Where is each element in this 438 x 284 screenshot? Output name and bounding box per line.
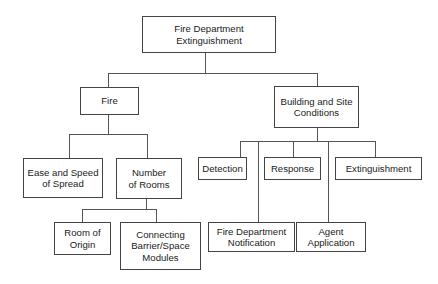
- connector: [328, 141, 329, 222]
- connector: [82, 209, 83, 222]
- connector: [146, 198, 147, 209]
- node-fire-department-notification: Fire Department Notification: [208, 222, 295, 252]
- connector: [293, 141, 294, 157]
- node-building-and-site-conditions: Building and Site Conditions: [274, 86, 359, 128]
- node-connecting-barrier-space-modules: Connecting Barrier/Space Modules: [120, 222, 201, 270]
- connector: [147, 134, 148, 158]
- node-room-of-origin: Room of Origin: [54, 222, 111, 255]
- connector: [375, 141, 376, 157]
- connector: [108, 73, 318, 74]
- connector: [317, 73, 318, 86]
- connector: [108, 73, 109, 87]
- node-fire-department-extinguishment: Fire Department Extinguishment: [142, 16, 276, 53]
- node-detection: Detection: [198, 157, 247, 180]
- connector: [69, 134, 70, 158]
- node-ease-and-speed-of-spread: Ease and Speed of Spread: [23, 158, 103, 198]
- node-number-of-rooms: Number of Rooms: [116, 158, 182, 199]
- node-response: Response: [264, 157, 321, 180]
- connector: [258, 141, 259, 222]
- connector: [69, 134, 148, 135]
- connector: [205, 52, 206, 73]
- node-agent-application: Agent Application: [296, 222, 366, 252]
- connector: [317, 127, 318, 141]
- connector: [156, 209, 157, 222]
- connector: [108, 114, 109, 134]
- connector: [240, 141, 376, 142]
- connector: [240, 141, 241, 157]
- connector: [82, 209, 157, 210]
- node-extinguishment: Extinguishment: [335, 157, 422, 180]
- node-fire: Fire: [80, 87, 139, 115]
